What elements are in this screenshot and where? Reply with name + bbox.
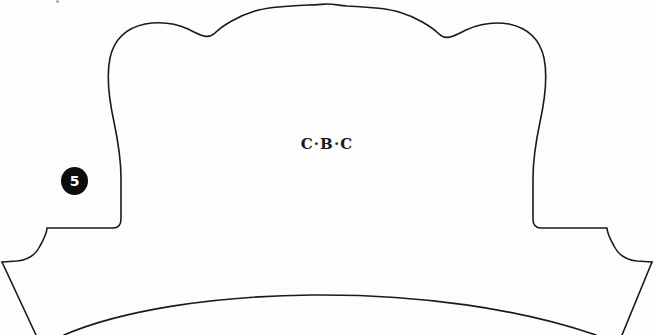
callout-badge-number: 5	[70, 174, 80, 188]
chair-back-line-drawing	[0, 0, 654, 335]
callout-badge-5[interactable]: 5	[61, 167, 88, 195]
scan-speck	[56, 0, 59, 3]
center-label-cbc: C·B·C	[0, 137, 654, 152]
canvas-background	[0, 0, 654, 335]
drawing-page: C·B·C 5	[0, 0, 654, 335]
